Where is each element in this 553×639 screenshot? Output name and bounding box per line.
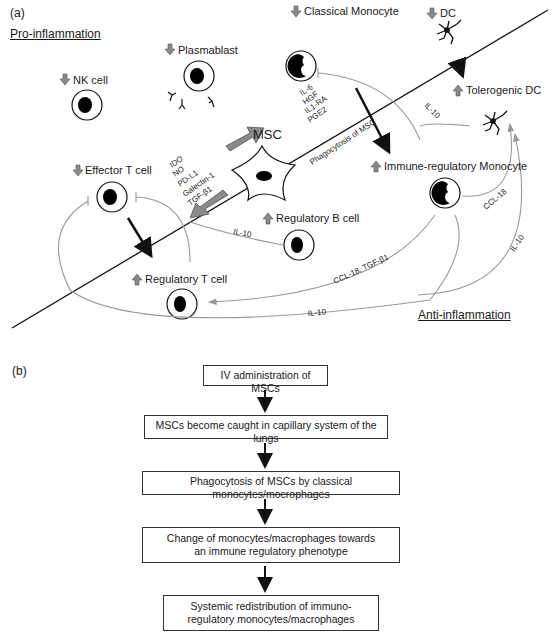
edge-ccl18: CCL-18 — [482, 187, 509, 212]
antibody-icons — [168, 92, 214, 109]
nk-down-arrow — [60, 74, 70, 85]
flow-step-2: MSCs become caught in capillary system o… — [144, 415, 388, 439]
plasmablast-down-arrow — [165, 44, 175, 55]
nk-cell-icon — [72, 90, 102, 120]
il10-to-tolerogenic-dc — [420, 124, 470, 126]
tcell-transition-arrow — [128, 218, 150, 254]
edge-ccl18-tgf: CCL-18, TGF-β1 — [332, 252, 390, 286]
classical-monocyte-label: Classical Monocyte — [304, 5, 399, 17]
immune-monocyte-up-arrow — [371, 161, 381, 172]
edge-il10-right: IL-10 — [508, 233, 526, 254]
dc-label: DC — [440, 7, 456, 19]
il10-mono-to-tolerogenic-dc — [418, 135, 522, 295]
immune-regulatory-monocyte-label: Immune-regulatory Monocyte — [384, 160, 527, 172]
plasmablast-icon — [184, 61, 214, 91]
edge-il10-bcell: IL-10 — [233, 227, 253, 239]
classical-monocyte-down-arrow — [291, 6, 301, 17]
phagocytosis-label: Phagocytosis of MSC — [308, 117, 377, 166]
flow-step-5: Systemic redistribution of immuno-regula… — [163, 595, 379, 631]
regulatory-t-up-arrow — [132, 274, 142, 285]
dc-down-arrow — [427, 8, 437, 19]
tolerogenic-dc-label: Tolerogenic DC — [466, 84, 541, 96]
regulatory-t-cell-icon — [167, 289, 197, 319]
tolerogenic-dc-up-arrow — [453, 85, 463, 96]
immune-regulatory-monocyte-icon — [430, 178, 460, 208]
effector-t-cell-icon — [97, 182, 127, 212]
plasmablast-label: Plasmablast — [178, 44, 238, 56]
panel-b-label: (b) — [12, 364, 27, 378]
pro-inflammation-heading: Pro-inflammation — [10, 27, 101, 41]
regulatory-b-up-arrow — [263, 213, 273, 224]
flow-step-4: Change of monocytes/macrophages towards … — [142, 527, 400, 563]
dc-icon — [437, 20, 461, 44]
flow-step-3: Phagocytosis of MSCs by classical monocy… — [142, 471, 400, 495]
edge-il10-bottom: IL-10 — [307, 307, 326, 318]
flow-step-1: IV administration of MSCs — [203, 365, 328, 386]
inhibit-effector-t-right — [136, 197, 190, 262]
msc-label: MSC — [253, 127, 282, 142]
effector-t-down-arrow — [73, 165, 83, 176]
anti-inflammation-heading: Anti-inflammation — [418, 308, 511, 322]
inhibit-effector-t-left — [58, 201, 459, 318]
effector-t-cell-label: Effector T cell — [85, 164, 152, 176]
panel-a-label: (a) — [10, 6, 25, 20]
regulatory-b-cell-icon — [284, 230, 314, 260]
regulatory-b-cell-label: Regulatory B cell — [276, 212, 359, 224]
nk-cell-label: NK cell — [73, 74, 108, 86]
tolerogenic-dc-icon — [483, 111, 507, 135]
regulatory-t-cell-label: Regulatory T cell — [145, 273, 227, 285]
classical-monocyte-icon — [286, 51, 316, 81]
edge-il10-to-dc: IL-10 — [423, 101, 443, 121]
